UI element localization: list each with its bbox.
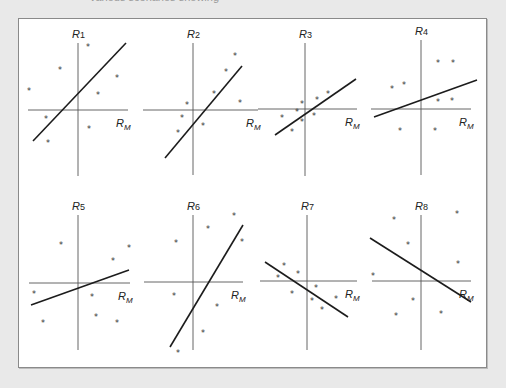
data-point-star-icon: * <box>180 114 184 123</box>
data-point-star-icon: * <box>94 313 98 322</box>
scatter-grid: R1RM********R2RM********R3RM********R4RM… <box>0 0 506 388</box>
data-point-star-icon: * <box>320 306 324 315</box>
panel-r4: R4RM******** <box>371 25 477 175</box>
data-point-star-icon: * <box>300 100 304 109</box>
data-point-star-icon: * <box>172 292 176 301</box>
data-point-star-icon: * <box>411 297 415 306</box>
data-point-star-icon: * <box>232 212 236 221</box>
data-point-star-icon: * <box>290 128 294 137</box>
data-point-star-icon: * <box>371 272 375 281</box>
data-point-star-icon: * <box>96 91 100 100</box>
data-point-star-icon: * <box>436 59 440 68</box>
data-point-star-icon: * <box>312 112 316 121</box>
data-point-star-icon: * <box>334 295 338 304</box>
regression-line <box>265 262 348 317</box>
y-axis-label: R1 <box>72 28 85 40</box>
y-axis-label: R7 <box>301 200 314 212</box>
data-point-star-icon: * <box>212 90 216 99</box>
panel-r8: R8RM******** <box>370 200 474 350</box>
data-point-star-icon: * <box>326 90 330 99</box>
y-axis-label: R3 <box>299 28 312 40</box>
data-point-star-icon: * <box>58 66 62 75</box>
data-point-star-icon: * <box>224 68 228 77</box>
data-point-star-icon: * <box>394 312 398 321</box>
data-point-star-icon: * <box>455 210 459 219</box>
data-point-star-icon: * <box>90 293 94 302</box>
data-point-star-icon: * <box>176 349 180 358</box>
x-axis-label: RM <box>118 290 133 305</box>
data-point-star-icon: * <box>59 241 63 250</box>
data-point-star-icon: * <box>176 129 180 138</box>
data-point-star-icon: * <box>115 74 119 83</box>
regression-line <box>170 225 243 347</box>
data-point-star-icon: * <box>392 216 396 225</box>
x-axis-label: RM <box>231 289 246 304</box>
data-point-star-icon: * <box>290 290 294 299</box>
data-point-star-icon: * <box>282 262 286 271</box>
y-axis-label: R2 <box>187 28 200 40</box>
y-axis-label: R5 <box>72 200 85 212</box>
data-point-star-icon: * <box>46 139 50 148</box>
data-point-star-icon: * <box>300 118 304 127</box>
regression-line <box>165 66 242 158</box>
panel-r2: R2RM******** <box>143 28 261 175</box>
x-axis-label: RM <box>116 117 131 132</box>
y-axis-label: R6 <box>187 200 200 212</box>
data-point-star-icon: * <box>398 127 402 136</box>
data-point-star-icon: * <box>436 98 440 107</box>
data-point-star-icon: * <box>240 238 244 247</box>
data-point-star-icon: * <box>115 319 119 328</box>
data-point-star-icon: * <box>280 114 284 123</box>
data-point-star-icon: * <box>41 319 45 328</box>
regression-line <box>275 79 356 135</box>
regression-line <box>370 238 471 302</box>
data-point-star-icon: * <box>310 297 314 306</box>
data-point-star-icon: * <box>276 274 280 283</box>
data-point-star-icon: * <box>215 303 219 312</box>
data-point-star-icon: * <box>315 96 319 105</box>
data-point-star-icon: * <box>439 310 443 319</box>
data-point-star-icon: * <box>86 43 90 52</box>
data-point-star-icon: * <box>127 244 131 253</box>
data-point-star-icon: * <box>456 260 460 269</box>
regression-line <box>31 270 129 305</box>
data-point-star-icon: * <box>233 52 237 61</box>
x-axis-label: RM <box>246 117 261 132</box>
data-point-star-icon: * <box>206 225 210 234</box>
data-point-star-icon: * <box>295 108 299 117</box>
data-point-star-icon: * <box>87 125 91 134</box>
data-point-star-icon: * <box>433 127 437 136</box>
data-point-star-icon: * <box>314 284 318 293</box>
panel-r7: R7RM******** <box>260 200 360 350</box>
x-axis-label: RM <box>345 288 360 303</box>
x-axis-label: RM <box>345 116 360 131</box>
data-point-star-icon: * <box>44 115 48 124</box>
panel-r1: R1RM******** <box>27 28 131 176</box>
data-point-star-icon: * <box>450 97 454 106</box>
data-point-star-icon: * <box>111 257 115 266</box>
data-point-star-icon: * <box>27 87 31 96</box>
y-axis-label: R4 <box>415 25 428 37</box>
data-point-star-icon: * <box>390 85 394 94</box>
data-point-star-icon: * <box>402 81 406 90</box>
panel-r5: R5RM******** <box>29 200 133 350</box>
y-axis-label: R8 <box>415 200 428 212</box>
regression-line <box>33 43 126 141</box>
data-point-star-icon: * <box>185 101 189 110</box>
data-point-star-icon: * <box>406 241 410 250</box>
panel-r6: R6RM******** <box>144 200 246 358</box>
x-axis-label: RM <box>459 116 474 131</box>
data-point-star-icon: * <box>174 239 178 248</box>
panel-r3: R3RM******** <box>258 28 360 176</box>
data-point-star-icon: * <box>32 290 36 299</box>
data-point-star-icon: * <box>451 59 455 68</box>
data-point-star-icon: * <box>201 122 205 131</box>
data-point-star-icon: * <box>201 329 205 338</box>
data-point-star-icon: * <box>238 99 242 108</box>
data-point-star-icon: * <box>296 270 300 279</box>
